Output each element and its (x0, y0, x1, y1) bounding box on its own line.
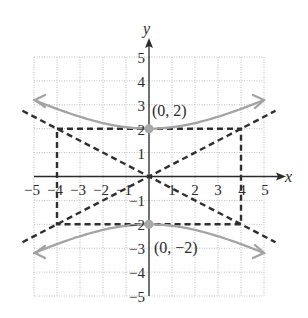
y-tick-label: 1 (138, 146, 146, 162)
hyperbola-graph: x y −5 −4 −3 −2 −1 1 2 3 4 5 5 4 3 2 1 −… (0, 0, 308, 318)
y-axis-label: y (141, 20, 151, 38)
y-tick-label: −2 (129, 217, 145, 233)
x-tick-label: −5 (24, 182, 40, 198)
vertex-upper-label: (0, 2) (152, 102, 187, 120)
y-tick-label: −5 (129, 289, 145, 305)
y-tick-label: 2 (138, 122, 146, 138)
y-tick-label: 5 (138, 50, 146, 66)
x-tick-label: 2 (191, 182, 199, 198)
x-tick-label: 3 (214, 182, 222, 198)
vertex-upper-point (145, 124, 154, 133)
x-axis-label: x (284, 168, 292, 185)
x-tick-label: 1 (168, 182, 176, 198)
y-tick-label: −4 (129, 265, 145, 281)
x-tick-label: −4 (47, 182, 63, 198)
x-tick-label: −2 (93, 182, 109, 198)
y-tick-label: −3 (129, 241, 145, 257)
x-tick-label: −3 (70, 182, 86, 198)
axes (34, 38, 286, 296)
y-tick-label: 3 (138, 98, 146, 114)
y-tick-labels: 5 4 3 2 1 −1 −2 −3 −4 −5 (129, 50, 145, 305)
vertex-lower-point (145, 220, 154, 229)
x-tick-label: 5 (261, 182, 269, 198)
vertex-lower-label: (0, −2) (154, 239, 198, 257)
x-tick-label: 4 (238, 182, 246, 198)
y-tick-label: −1 (129, 193, 145, 209)
y-tick-label: 4 (138, 74, 146, 90)
x-tick-labels: −5 −4 −3 −2 −1 1 2 3 4 5 (24, 182, 269, 198)
